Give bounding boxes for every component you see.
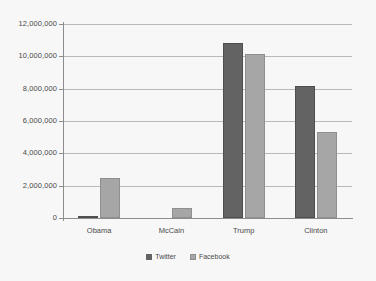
- legend-label: Twitter: [155, 253, 176, 260]
- x-axis-label-obama: Obama: [59, 226, 139, 235]
- bar-trump-facebook: [245, 54, 265, 218]
- y-axis-tick-label: 12,000,000: [1, 19, 57, 28]
- legend-swatch-icon-facebook: [190, 254, 196, 260]
- y-axis-tick-label: 2,000,000: [1, 181, 57, 190]
- chart-legend: TwitterFacebook: [0, 253, 376, 260]
- y-axis-tick-label-wrap: 4,000,000: [0, 148, 57, 158]
- y-axis-tick-label-wrap: 10,000,000: [0, 51, 57, 61]
- y-axis-tick-label: 10,000,000: [1, 51, 57, 60]
- y-axis-line: [63, 22, 64, 221]
- legend-label: Facebook: [199, 253, 230, 260]
- x-axis-label-trump: Trump: [204, 226, 284, 235]
- x-axis-line: [63, 218, 353, 219]
- y-axis-tick-label: 4,000,000: [1, 148, 57, 157]
- bar-trump-twitter: [223, 43, 243, 218]
- bar-clinton-twitter: [295, 86, 315, 218]
- y-axis-tick-label-wrap: 2,000,000: [0, 181, 57, 191]
- legend-swatch-icon-twitter: [146, 254, 152, 260]
- x-axis-label-clinton: Clinton: [276, 226, 356, 235]
- x-axis-label-mccain: McCain: [131, 226, 211, 235]
- bar-obama-facebook: [100, 178, 120, 218]
- y-axis-tick-label-wrap: 0: [0, 213, 57, 223]
- bar-clinton-facebook: [317, 132, 337, 218]
- bar-mccain-facebook: [172, 208, 192, 218]
- y-axis-tick-label-wrap: 6,000,000: [0, 116, 57, 126]
- y-axis-tick-label: 0: [1, 213, 57, 222]
- legend-item-facebook[interactable]: Facebook: [190, 253, 230, 260]
- y-axis-tick-label-wrap: 8,000,000: [0, 84, 57, 94]
- bar-chart: 02,000,0004,000,0006,000,0008,000,00010,…: [0, 0, 376, 281]
- legend-item-twitter[interactable]: Twitter: [146, 253, 176, 260]
- plot-area: [63, 24, 352, 218]
- y-axis-tick-label: 6,000,000: [1, 116, 57, 125]
- y-axis-tick-label-wrap: 12,000,000: [0, 19, 57, 29]
- y-axis-tick-label: 8,000,000: [1, 84, 57, 93]
